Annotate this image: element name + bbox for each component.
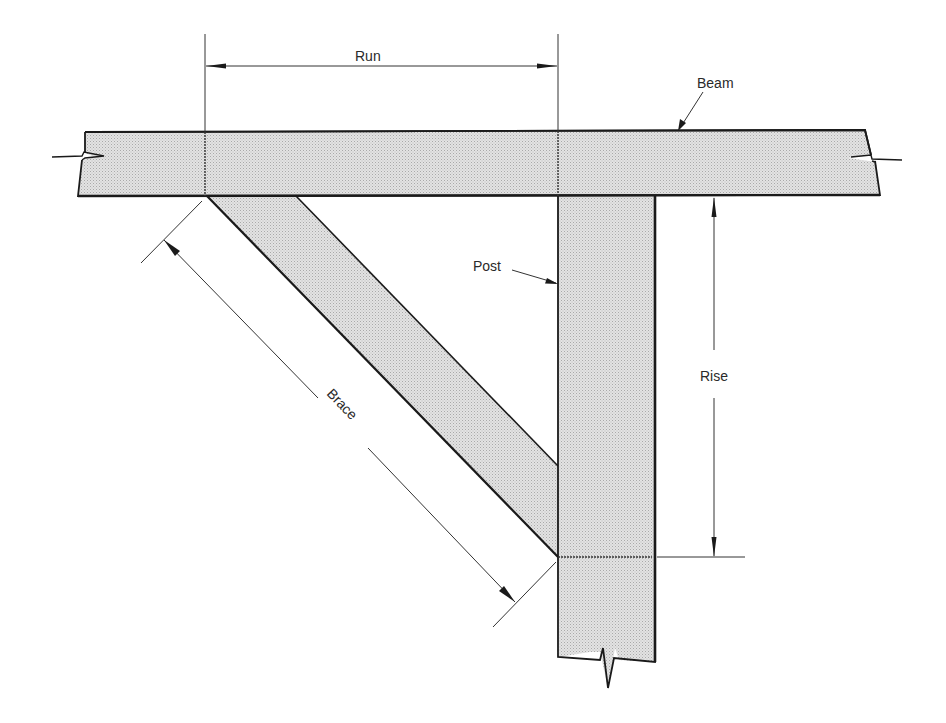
beam-member [78,130,880,196]
post-label: Post [473,258,501,274]
beam-label: Beam [697,75,734,91]
run-arrow-left-icon [206,64,226,69]
brace-lower-edge [207,196,558,557]
knee-brace-diagram [0,0,946,723]
beam-bottom-edge [78,195,880,196]
rise-arrow-down-icon [712,537,717,557]
run-label: Run [355,48,381,64]
brace-extension-bottom [493,562,556,627]
run-arrow-right-icon [537,64,557,69]
post-member [558,195,655,688]
post-leader-arrow-icon [545,278,558,284]
rise-arrow-up-icon [712,197,717,217]
rise-label: Rise [700,368,728,384]
brace-extension-top [141,201,202,263]
brace-upper-edge [296,196,558,466]
